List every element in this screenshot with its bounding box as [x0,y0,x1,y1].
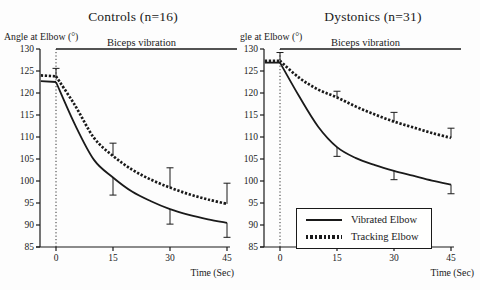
y-tick-label: 115 [20,110,34,120]
chart-title: Controls (n=16) [0,0,240,29]
y-axis-label: Angle at Elbow (°) [240,31,302,43]
y-axis-label: Angle at Elbow (°) [4,31,78,43]
plot-canvas-controls: Biceps vibration859095100105110115120125… [0,29,240,281]
y-tick-label: 95 [249,198,259,208]
y-tick-label: 90 [249,220,259,230]
y-tick-label: 90 [25,220,35,230]
x-tick-label: 15 [108,253,118,263]
x-tick-label: 0 [54,253,59,263]
y-tick-label: 85 [249,242,259,252]
y-tick-label: 100 [20,176,35,186]
series-tracking-elbow [265,61,451,138]
y-tick-label: 110 [244,132,258,142]
legend-label: Vibrated Elbow [351,214,417,226]
y-tick-label: 130 [244,44,259,54]
y-tick-label: 95 [25,198,35,208]
y-tick-label: 120 [20,88,35,98]
y-tick-label: 85 [25,242,35,252]
legend-label: Tracking Elbow [351,231,419,243]
chart-controls: Controls (n=16) Biceps vibration85909510… [0,0,240,290]
x-tick-label: 0 [278,253,283,263]
x-tick-label: 30 [389,253,399,263]
series-vibrated-elbow [41,81,227,223]
series-vibrated-elbow [265,63,451,185]
x-axis-label: Time (Sec) [191,267,234,279]
error-bars-tracking-elbow [53,68,231,204]
y-tick-label: 105 [244,154,259,164]
series-tracking-elbow [41,75,227,203]
x-axis-label: Time (Sec) [431,267,474,279]
axes [36,49,230,251]
legend-item-vibrated: Vibrated Elbow [306,214,425,226]
y-tick-label: 115 [244,110,258,120]
x-tick-label: 45 [446,253,456,263]
chart-dystonics: Dystonics (n=31) Biceps vibration8590951… [240,0,480,290]
y-tick-label: 100 [244,176,259,186]
y-tick-label: 125 [20,66,35,76]
solid-line-icon [306,219,342,221]
y-tick-label: 130 [20,44,35,54]
y-tick-label: 125 [244,66,259,76]
x-tick-label: 30 [165,253,175,263]
y-tick-label: 105 [20,154,35,164]
x-tick-label: 45 [222,253,232,263]
figure-elbow-angle: Controls (n=16) Biceps vibration85909510… [0,0,480,290]
error-bars-tracking-elbow [277,53,455,138]
legend-item-tracking: Tracking Elbow [306,231,425,243]
dotted-line-icon [306,235,342,239]
y-tick-label: 110 [20,132,34,142]
legend: Vibrated Elbow Tracking Elbow [296,208,432,249]
vibration-annotation: Biceps vibration [107,37,177,48]
vibration-annotation: Biceps vibration [331,37,401,48]
x-tick-label: 15 [332,253,342,263]
chart-title: Dystonics (n=31) [240,0,480,29]
y-tick-label: 120 [244,88,259,98]
